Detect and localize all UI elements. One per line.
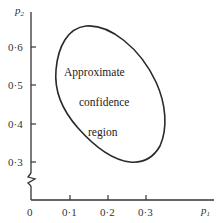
region-annotation-line2: confidence xyxy=(79,96,129,108)
x-tick-label: 0·3 xyxy=(138,206,153,218)
region-annotation-line3: region xyxy=(88,126,118,139)
axis-break-zigzag xyxy=(28,173,35,186)
confidence-region-curve xyxy=(56,26,165,162)
y-tick-label: 0·6 xyxy=(8,41,23,53)
x-tick-label: 0·2 xyxy=(100,206,115,218)
y-axis xyxy=(28,12,35,200)
x-tick-label-origin: 0 xyxy=(27,206,33,218)
y-ticks xyxy=(31,47,36,162)
x-tick-label: 0·1 xyxy=(62,206,77,218)
x-ticks xyxy=(70,195,146,200)
y-tick-label: 0·4 xyxy=(8,118,23,130)
region-annotation-line1: Approximate xyxy=(64,66,125,79)
x-axis-title: p1 xyxy=(200,204,210,218)
confidence-region-chart: 0·6 0·5 0·4 0·3 0 0·1 0·2 0·3 p2 p1 Appr… xyxy=(0,0,220,223)
y-axis-title: p2 xyxy=(14,4,25,18)
y-tick-label: 0·3 xyxy=(8,156,23,168)
y-tick-label: 0·5 xyxy=(8,79,23,91)
